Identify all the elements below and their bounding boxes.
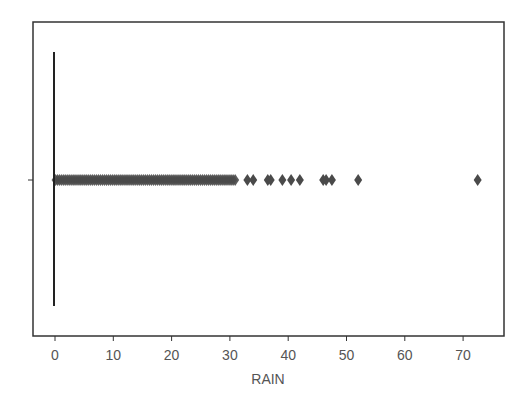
x-tick-label: 20 [164,347,180,363]
outlier-band [52,174,240,186]
x-axis-label: RAIN [251,371,284,387]
x-tick-label: 60 [397,347,413,363]
outlier-point [354,174,362,186]
outlier-point [296,174,304,186]
x-tick-label: 70 [455,347,471,363]
plot-area [52,52,482,306]
x-tick-label: 0 [51,347,59,363]
outlier-point [287,174,295,186]
boxplot-chart: 010203040506070 RAIN [0,0,531,400]
x-tick-label: 10 [106,347,122,363]
x-axis: 010203040506070 [51,336,471,363]
outlier-point [249,174,257,186]
x-tick-label: 50 [339,347,355,363]
x-tick-label: 40 [280,347,296,363]
outlier-point [278,174,286,186]
outlier-point [474,174,482,186]
outlier-point [328,174,336,186]
x-tick-label: 30 [222,347,238,363]
